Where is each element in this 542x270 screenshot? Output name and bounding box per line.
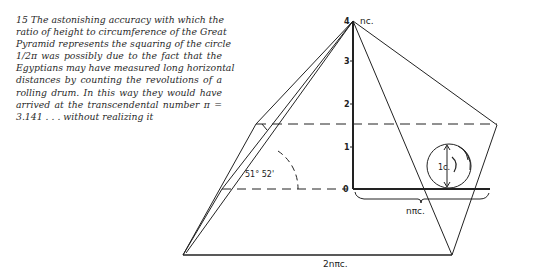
scale-tick-0: 0	[343, 185, 349, 194]
height-axis	[350, 21, 353, 189]
apex-tick-label: 4	[344, 17, 350, 26]
angle-label: 51° 52'	[245, 170, 274, 179]
half-base-label: nπc.	[406, 206, 425, 216]
angle-arc	[278, 151, 298, 189]
scale-tick-3: 3	[344, 57, 350, 66]
scale-tick-1: 1	[344, 143, 350, 152]
half-base-brace	[355, 192, 489, 203]
scale-tick-2: 2	[344, 100, 350, 109]
apex-label: nc.	[360, 16, 374, 26]
base-label: 2nπc.	[323, 259, 348, 269]
pyramid-outline	[183, 21, 497, 255]
drum-diameter-label: 1c.	[438, 163, 450, 172]
pyramid-diagram: 4 nc. 3 2 1 0 51° 52' 1c. nπc. 2nπc.	[0, 0, 542, 270]
